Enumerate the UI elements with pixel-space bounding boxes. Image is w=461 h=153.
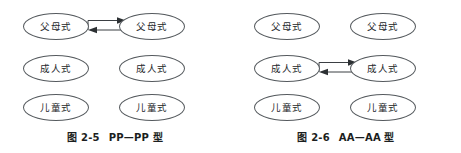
node-adult-left: 成人式 [23,55,89,82]
node-label: 成人式 [136,63,167,73]
node-label: 成人式 [367,63,398,73]
node-parent-right: 父母式 [119,13,185,40]
node-adult-right: 成人式 [119,55,185,82]
node-adult-right: 成人式 [350,55,416,82]
node-label: 儿童式 [367,102,398,112]
node-label: 父母式 [40,21,71,31]
figure-caption-title: PP—PP 型 [109,132,163,143]
figure-panel-2-5: 父母式 父母式 成人式 成人式 儿童式 儿童式 [0,0,230,153]
node-label: 父母式 [367,21,398,31]
node-adult-left: 成人式 [254,55,320,82]
figure-panel-2-6: 父母式 父母式 成人式 成人式 儿童式 儿童式 [231,0,461,153]
node-label: 儿童式 [271,102,302,112]
figure-caption-number: 图 2-6 [297,132,330,143]
node-parent-left: 父母式 [254,13,320,40]
figure-caption-number: 图 2-5 [67,132,100,143]
node-child-right: 儿童式 [350,94,416,121]
node-label: 儿童式 [136,102,167,112]
node-child-right: 儿童式 [119,94,185,121]
node-label: 成人式 [271,63,302,73]
figure-board: 父母式 父母式 成人式 成人式 儿童式 儿童式 [0,0,461,153]
figure-caption-2-5: 图 2-5PP—PP 型 [0,129,230,144]
node-child-left: 儿童式 [254,94,320,121]
node-label: 父母式 [136,21,167,31]
node-label: 父母式 [271,21,302,31]
node-label: 成人式 [40,63,71,73]
figure-caption-title: AA—AA 型 [339,132,395,143]
figure-caption-2-6: 图 2-6AA—AA 型 [231,129,461,144]
node-parent-left: 父母式 [23,13,89,40]
node-child-left: 儿童式 [23,94,89,121]
node-parent-right: 父母式 [350,13,416,40]
node-label: 儿童式 [40,102,71,112]
